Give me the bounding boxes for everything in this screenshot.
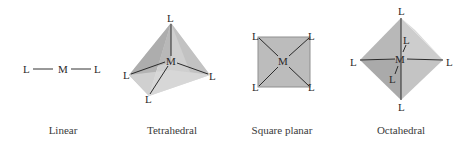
ligand-label: L <box>308 30 315 42</box>
ligand-label: L <box>350 56 357 68</box>
metal-label: M <box>166 55 176 67</box>
ligand-label: L <box>94 63 101 75</box>
caption-octahedral: Octahedral <box>377 124 425 136</box>
square-planar-geometry: L L M L L Square planar <box>252 30 315 136</box>
ligand-label: L <box>403 34 410 46</box>
ligand-label: L <box>209 70 216 82</box>
caption-tetrahedral: Tetrahedral <box>147 124 197 136</box>
octa-face-lower-right <box>401 58 443 100</box>
ligand-label: L <box>398 5 405 17</box>
caption-linear: Linear <box>49 124 78 136</box>
ligand-label: L <box>252 30 259 42</box>
ligand-label: L <box>23 63 30 75</box>
ligand-label: L <box>398 101 405 113</box>
caption-square-planar: Square planar <box>252 124 313 136</box>
linear-geometry: L M L Linear <box>23 63 101 136</box>
ligand-label: L <box>167 12 174 24</box>
tetra-face-base <box>129 70 210 96</box>
ligand-label: L <box>308 81 315 93</box>
octahedral-geometry: L L M L L L L Octahedral <box>350 5 453 136</box>
ligand-label: L <box>389 73 396 85</box>
ligand-label: L <box>123 69 130 81</box>
ligand-label: L <box>145 93 152 105</box>
metal-label: M <box>395 53 405 65</box>
metal-label: M <box>58 63 68 75</box>
tetrahedral-geometry: L M L L L Tetrahedral <box>123 12 216 136</box>
ligand-label: L <box>446 56 453 68</box>
ligand-label: L <box>252 81 259 93</box>
metal-label: M <box>278 55 288 67</box>
coordination-geometries-figure: L M L Linear L M L L L Tetrahedral L L <box>0 0 467 145</box>
